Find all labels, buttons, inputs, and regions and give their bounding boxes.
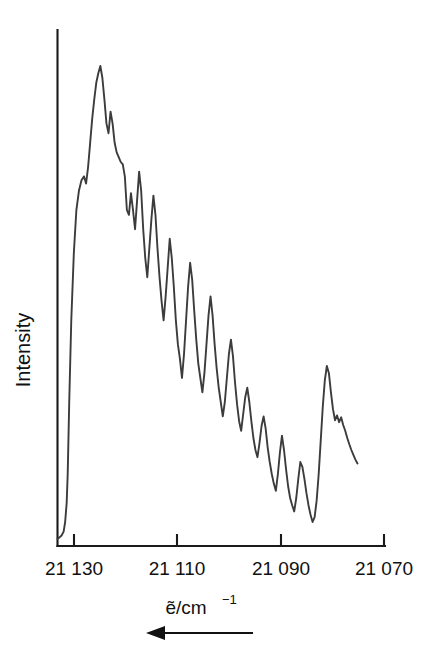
x-axis-tick-label-1: 21 130 [45,558,103,579]
x-axis-tick-label-2: 21 110 [149,558,206,579]
x-axis-caption-exponent: −1 [222,592,237,607]
x-axis-caption-base: ẽ/cm [165,597,206,618]
x-axis-group: 21 130 21 110 21 090 21 070 [45,534,413,579]
y-axis-title: Intensity [12,313,34,387]
spectrum-figure: Intensity 21 130 21 110 21 090 21 070 ẽ/… [0,0,448,654]
spectrum-plot: Intensity 21 130 21 110 21 090 21 070 ẽ/… [0,0,448,654]
axis-direction-arrow [146,626,253,640]
spectrum-trace-line [58,66,358,539]
arrow-head [146,626,165,640]
y-axis-group: Intensity [12,30,58,546]
x-axis-tick-label-4: 21 070 [355,558,413,579]
x-axis-tick-label-3: 21 090 [252,558,310,579]
x-axis-caption-group: ẽ/cm −1 [146,592,253,640]
